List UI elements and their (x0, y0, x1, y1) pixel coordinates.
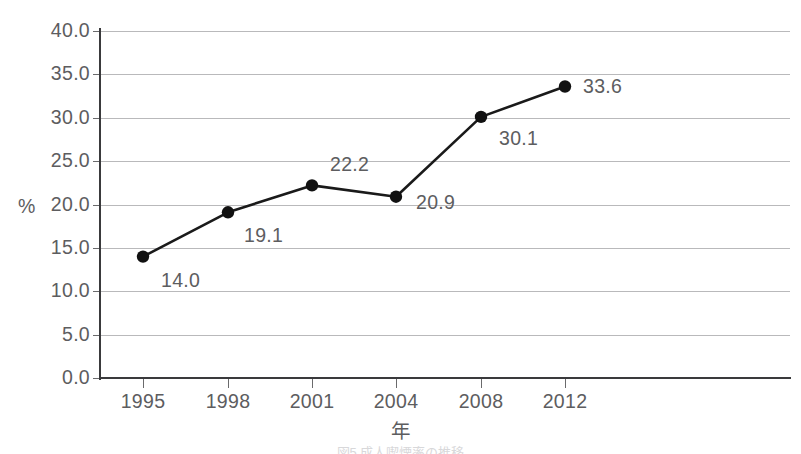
line-chart-figure: 40.035.030.025.020.015.010.05.00.0 19951… (0, 0, 801, 454)
data-point-marker (559, 80, 571, 92)
data-point-value-label: 14.0 (161, 269, 200, 292)
data-point-value-label: 19.1 (244, 224, 283, 247)
data-point-marker (137, 250, 149, 262)
data-point-marker (222, 206, 234, 218)
series-line-group (0, 0, 801, 454)
data-point-value-label: 20.9 (416, 191, 455, 214)
data-point-value-label: 22.2 (330, 153, 369, 176)
figure-caption-ghost: 図5 成人喫煙率の推移 (0, 446, 801, 454)
data-point-value-label: 30.1 (499, 127, 538, 150)
data-point-value-label: 33.6 (583, 75, 622, 98)
data-point-marker (475, 111, 487, 123)
data-point-marker (306, 179, 318, 191)
data-point-marker (390, 191, 402, 203)
